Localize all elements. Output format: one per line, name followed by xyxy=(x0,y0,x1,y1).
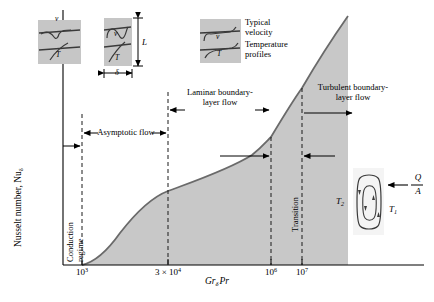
tick4-exp: 7 xyxy=(305,267,308,273)
tick1-base: 10 xyxy=(76,267,85,277)
tick1-exp: 3 xyxy=(85,267,88,273)
inset2-velocity-label: v xyxy=(114,29,117,39)
legend-velocity-symbol: v xyxy=(216,32,219,42)
enclosure-temp-cold-label: T1 xyxy=(389,204,397,217)
conduction-line2: regime xyxy=(76,238,86,262)
turbulent-line2: layer flow xyxy=(310,93,396,103)
legend-velocity-line2: velocity xyxy=(245,28,272,38)
y-axis-title-sub: δ xyxy=(17,168,24,171)
heat-flux-numerator: Q xyxy=(413,172,423,182)
region-label-turbulent-boundary-layer-flow: Turbulent boundary- layer flow xyxy=(310,83,396,102)
tick2-prefix: 3 × xyxy=(155,267,169,277)
y-axis-title: Nusselt number, Nuδ xyxy=(13,168,26,247)
region-label-transition: Transition xyxy=(290,197,300,232)
x-tick-label-1e6: 106 xyxy=(258,267,284,277)
tick2-exp: 4 xyxy=(178,267,181,273)
legend-temperature-line2: profiles xyxy=(245,50,288,60)
tick2-base: 10 xyxy=(169,267,178,277)
heat-flux-denominator: A xyxy=(413,186,423,196)
tick4-base: 10 xyxy=(296,267,305,277)
x-axis-title-tail: Pr xyxy=(220,276,230,286)
enclosure-temp-hot-label: T2 xyxy=(336,196,344,209)
x-tick-label-3e4: 3 × 104 xyxy=(145,267,191,277)
inset1-velocity-label: v xyxy=(55,14,58,24)
enclosure-temp-hot-sub: 2 xyxy=(341,201,344,207)
tick3-base: 10 xyxy=(265,267,274,277)
inset2-temperature-label: T xyxy=(115,53,119,63)
tick3-exp: 6 xyxy=(274,267,277,273)
x-axis-title-main: Gr xyxy=(205,276,216,286)
y-axis-title-main: Nusselt number, Nu xyxy=(13,171,23,247)
x-axis-title: GrδPr xyxy=(205,276,229,289)
inset2-width-dimension-label: δ xyxy=(115,68,119,78)
region-label-asymptotic-flow: Asymptotic flow xyxy=(95,128,157,138)
legend-temperature-text: Temperature profiles xyxy=(245,40,288,59)
x-axis-title-sub: δ xyxy=(216,280,219,287)
enclosure-temp-cold-sub: 1 xyxy=(394,209,397,215)
region-label-conduction-regime-2: regime xyxy=(76,238,86,262)
legend-temperature-symbol: T xyxy=(217,49,221,59)
region-label-laminar-boundary-layer-flow: Laminar boundary- layer flow xyxy=(180,88,260,107)
inset1-temperature-label: T xyxy=(56,50,60,60)
convection-regime-chart: v T v T L δ v T Typical velocity Tempera… xyxy=(0,0,434,302)
inset2-height-dimension-label: L xyxy=(142,37,147,47)
x-tick-label-1e7: 107 xyxy=(289,267,315,277)
enclosure-diagram xyxy=(353,168,384,235)
laminar-line2: layer flow xyxy=(180,98,260,108)
legend-velocity-text: Typical velocity xyxy=(245,18,272,37)
x-tick-label-1e3: 103 xyxy=(68,267,96,277)
